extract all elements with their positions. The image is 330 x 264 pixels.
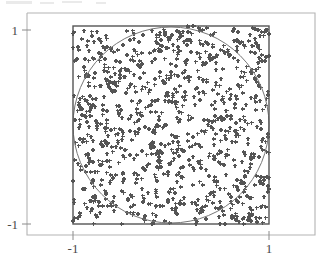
xtick-label-left: -1 xyxy=(68,241,79,256)
ytick-label-bottom: -1 xyxy=(7,217,18,232)
ytick-label-top: 1 xyxy=(12,23,19,38)
xtick-label-right: 1 xyxy=(266,241,273,256)
scatter-plot: 1 -1 -1 1 xyxy=(0,0,330,264)
figure-container: 1 -1 -1 1 xyxy=(0,0,330,264)
